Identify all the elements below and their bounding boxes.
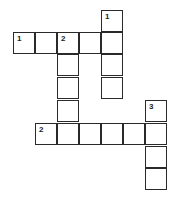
- crossword-cell[interactable]: [57, 123, 79, 145]
- crossword-cell[interactable]: [35, 32, 57, 54]
- clue-number: 2: [61, 35, 65, 43]
- crossword-cell[interactable]: [145, 146, 167, 168]
- clue-number: 3: [149, 103, 153, 111]
- crossword-cell[interactable]: [101, 123, 123, 145]
- clue-number: 1: [17, 35, 21, 43]
- crossword-cell[interactable]: [101, 32, 123, 54]
- crossword-cell[interactable]: 1: [101, 10, 123, 32]
- crossword-cell[interactable]: [79, 32, 101, 54]
- clue-number: 2: [39, 126, 43, 134]
- crossword-cell[interactable]: [145, 123, 167, 145]
- clue-number: 1: [105, 13, 109, 21]
- crossword-cell[interactable]: 2: [35, 123, 57, 145]
- crossword-cell[interactable]: [123, 123, 145, 145]
- crossword-cell[interactable]: [57, 100, 79, 122]
- crossword-cell[interactable]: [145, 168, 167, 190]
- crossword-cell[interactable]: [57, 77, 79, 99]
- crossword-cell[interactable]: [101, 77, 123, 99]
- crossword-cell[interactable]: [101, 54, 123, 76]
- crossword-cell[interactable]: 1: [13, 32, 35, 54]
- crossword-cell[interactable]: [79, 123, 101, 145]
- crossword-cell[interactable]: [57, 54, 79, 76]
- crossword-cell[interactable]: 3: [145, 100, 167, 122]
- crossword-cell[interactable]: 2: [57, 32, 79, 54]
